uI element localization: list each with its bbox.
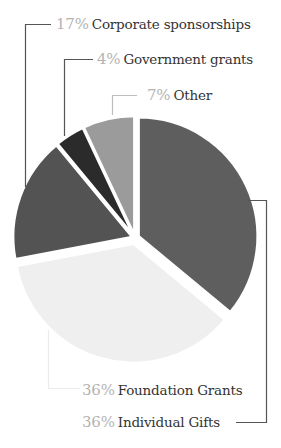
label-individual: 36%Individual Gifts — [82, 414, 220, 430]
label-foundation-name: Foundation Grants — [118, 382, 243, 398]
leader-line-other — [113, 96, 138, 116]
label-corporate-pct: 17% — [56, 15, 89, 33]
label-corporate-name: Corporate sponsorships — [92, 16, 251, 32]
label-government-name: Government grants — [123, 51, 253, 67]
pie-slices — [13, 116, 257, 363]
label-other: 7%Other — [147, 87, 212, 103]
label-government-pct: 4% — [97, 50, 120, 68]
label-government: 4%Government grants — [97, 51, 253, 67]
label-individual-pct: 36% — [82, 413, 115, 431]
label-individual-name: Individual Gifts — [118, 414, 220, 430]
pie-chart — [0, 0, 281, 448]
label-corporate: 17%Corporate sponsorships — [56, 16, 251, 32]
label-foundation-pct: 36% — [82, 381, 115, 399]
label-other-pct: 7% — [147, 86, 170, 104]
label-foundation: 36%Foundation Grants — [82, 382, 242, 398]
label-other-name: Other — [173, 87, 212, 103]
